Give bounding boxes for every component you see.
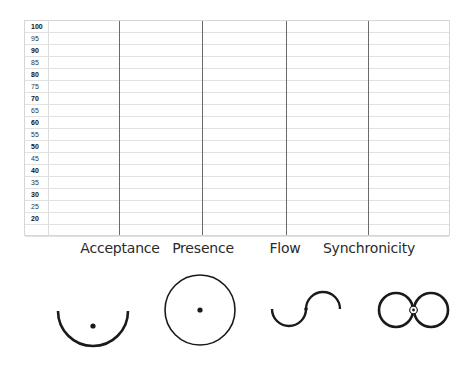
figure-eight-icon — [379, 293, 448, 327]
symbol-icons — [0, 0, 474, 367]
circle-with-dot-icon — [165, 275, 235, 345]
half-circle-with-dot-icon — [58, 311, 128, 346]
s-wave-icon — [272, 292, 340, 326]
